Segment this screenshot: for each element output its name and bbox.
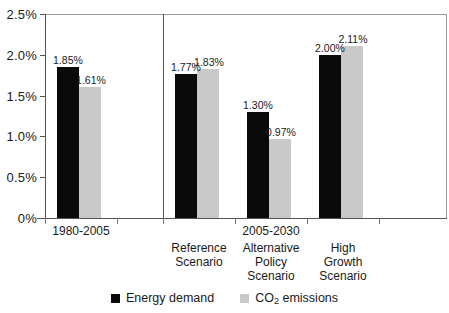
bar-label-co2-emissions-reference: 1.83% bbox=[194, 56, 224, 68]
y-axis-label-1: 0.5% bbox=[7, 170, 37, 185]
plot-border-right bbox=[446, 14, 447, 218]
bar-label-co2-emissions-1980-2005: 1.61% bbox=[76, 74, 106, 86]
bar-label-co2-emissions-alternative-policy: 0.97% bbox=[266, 126, 296, 138]
legend-label-co2-tail: emissions bbox=[279, 291, 338, 305]
bar-label-energy-demand-1980-2005: 1.85% bbox=[53, 54, 83, 66]
y-axis-label-3: 1.5% bbox=[7, 88, 37, 103]
legend-swatch-energy-demand-icon bbox=[111, 294, 120, 303]
x-axis-category-high-growth-line2: Growth bbox=[319, 255, 366, 269]
y-tick-5 bbox=[40, 14, 45, 15]
x-axis-category-alternative-line2: Policy bbox=[243, 255, 300, 269]
y-tick-4 bbox=[40, 55, 45, 56]
legend-item-co2-emissions: CO2 emissions bbox=[240, 291, 338, 305]
x-axis-category-alternative-line3: Scenario bbox=[243, 269, 300, 283]
legend-label-co2-emissions: CO2 emissions bbox=[255, 291, 338, 305]
x-axis-category-alternative-policy-scenario: Alternative Policy Scenario bbox=[243, 241, 300, 283]
y-axis-label-4: 2.0% bbox=[7, 47, 37, 62]
x-axis-category-1980-2005-line1: 1980-2005 bbox=[52, 224, 109, 238]
legend-label-co2-main: CO bbox=[255, 291, 274, 305]
legend-item-energy-demand: Energy demand bbox=[111, 291, 214, 305]
x-axis-category-alternative-line1: Alternative bbox=[243, 241, 300, 255]
bar-chart: 0% 0.5% 1.0% 1.5% 2.0% 2.5% 1.85% 1.61% bbox=[0, 0, 449, 313]
legend-label-energy-demand: Energy demand bbox=[126, 291, 214, 305]
y-axis-label-5: 2.5% bbox=[7, 7, 37, 22]
x-axis-line bbox=[37, 218, 447, 219]
bar-co2-emissions-1980-2005 bbox=[79, 87, 101, 218]
x-axis-category-1980-2005: 1980-2005 bbox=[52, 224, 109, 238]
period-divider bbox=[163, 14, 164, 218]
y-axis-line bbox=[45, 14, 46, 218]
y-tick-1 bbox=[40, 177, 45, 178]
x-axis-category-reference-scenario: Reference Scenario bbox=[171, 241, 226, 269]
plot-border-top bbox=[45, 14, 447, 15]
bar-co2-emissions-reference bbox=[197, 69, 219, 218]
bar-energy-demand-reference bbox=[175, 74, 197, 218]
y-tick-3 bbox=[40, 96, 45, 97]
x-axis-group-header: 2005-2030 bbox=[242, 224, 299, 238]
bar-label-energy-demand-alternative-policy: 1.30% bbox=[243, 99, 273, 111]
y-axis-label-2: 1.0% bbox=[7, 129, 37, 144]
y-tick-2 bbox=[40, 136, 45, 137]
x-tick-2 bbox=[163, 218, 164, 224]
x-tick-1 bbox=[117, 218, 118, 224]
x-tick-0 bbox=[45, 218, 46, 224]
bar-energy-demand-1980-2005 bbox=[57, 67, 79, 218]
legend-label-co2-subscript: 2 bbox=[274, 296, 279, 306]
x-axis-category-reference-line2: Scenario bbox=[171, 255, 226, 269]
x-axis-category-reference-line1: Reference bbox=[171, 241, 226, 255]
bar-co2-emissions-alternative-policy bbox=[269, 139, 291, 218]
chart-legend: Energy demand CO2 emissions bbox=[0, 291, 449, 305]
x-axis-category-high-growth-line1: High bbox=[319, 241, 366, 255]
x-axis-category-high-growth-scenario: High Growth Scenario bbox=[319, 241, 366, 283]
x-tick-4 bbox=[307, 218, 308, 224]
plot-area: 0% 0.5% 1.0% 1.5% 2.0% 2.5% 1.85% 1.61% bbox=[45, 14, 447, 218]
x-tick-3 bbox=[235, 218, 236, 224]
bar-co2-emissions-high-growth bbox=[341, 46, 363, 218]
bar-energy-demand-high-growth bbox=[319, 55, 341, 218]
bar-label-co2-emissions-high-growth: 2.11% bbox=[339, 33, 368, 45]
x-axis-category-high-growth-line3: Scenario bbox=[319, 269, 366, 283]
y-axis-label-0: 0% bbox=[18, 211, 37, 226]
x-tick-5 bbox=[379, 218, 380, 224]
legend-swatch-co2-emissions-icon bbox=[240, 294, 249, 303]
